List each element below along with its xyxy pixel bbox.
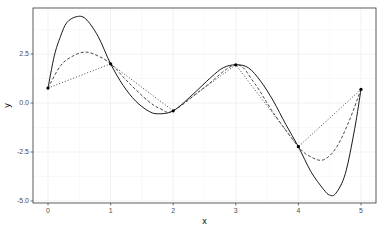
x-tick-label: 5 [359,207,363,214]
data-point [234,63,237,66]
y-tick-label: 2.5 [19,50,29,57]
data-point [46,87,49,90]
plot-panel [33,8,376,203]
x-tick-label: 2 [171,207,175,214]
x-tick-label: 4 [296,207,300,214]
data-point [359,88,362,91]
x-tick-label: 1 [109,207,113,214]
x-tick-label: 0 [46,207,50,214]
x-axis-title: x [202,216,207,226]
data-point [172,109,175,112]
y-tick-label: -5.0 [17,197,29,204]
y-tick-label: -2.5 [17,148,29,155]
data-point [109,62,112,65]
x-tick-label: 3 [234,207,238,214]
line-chart: 012345 -5.0-2.50.02.5 x y [0,0,382,232]
y-axis-title: y [2,103,12,108]
y-tick-label: 0.0 [19,99,29,106]
data-point [297,145,300,148]
